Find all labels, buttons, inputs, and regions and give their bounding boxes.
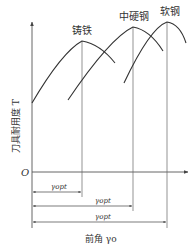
y-axis-label: 刀具耐用度 T bbox=[10, 99, 21, 153]
x-axis-label: 前角 γo bbox=[85, 233, 117, 244]
label-soft-steel: 软钢 bbox=[160, 5, 180, 17]
curve-cast-iron bbox=[32, 41, 115, 103]
label-medium-steel: 中硬钢 bbox=[119, 10, 149, 22]
origin-label: O bbox=[21, 167, 29, 178]
diagram-canvas: 铸铁 中硬钢 软钢 刀具耐用度 T O γopt γopt γopt 前角 γo bbox=[0, 0, 193, 249]
label-cast-iron: 铸铁 bbox=[72, 24, 92, 36]
gamma-opt-label-2: γopt bbox=[95, 197, 111, 205]
gamma-opt-label-3: γopt bbox=[95, 213, 111, 221]
gamma-opt-label-1: γopt bbox=[51, 183, 67, 191]
